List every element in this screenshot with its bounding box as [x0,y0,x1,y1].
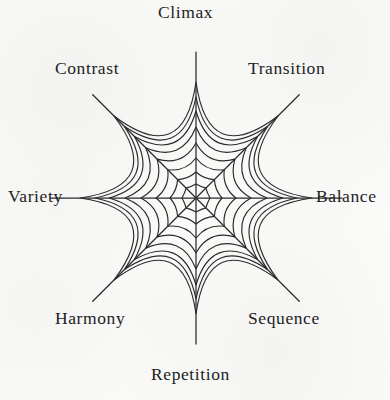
axis-label-contrast: Contrast [55,60,119,78]
axis-label-harmony: Harmony [55,310,125,328]
web-spoke-contrast [93,95,196,198]
axis-label-transition: Transition [248,60,325,78]
axis-label-balance: Balance [316,188,377,206]
web-spoke-transition [196,95,299,198]
axis-label-repetition: Repetition [151,366,230,384]
web-spoke-sequence [196,198,299,301]
web-spokes [50,52,342,344]
web-spoke-harmony [93,198,196,301]
spider-web-diagram: ClimaxTransitionBalanceSequenceRepetitio… [0,0,390,400]
axis-label-sequence: Sequence [248,310,320,328]
axis-label-climax: Climax [158,4,213,22]
axis-label-variety: Variety [8,188,63,206]
